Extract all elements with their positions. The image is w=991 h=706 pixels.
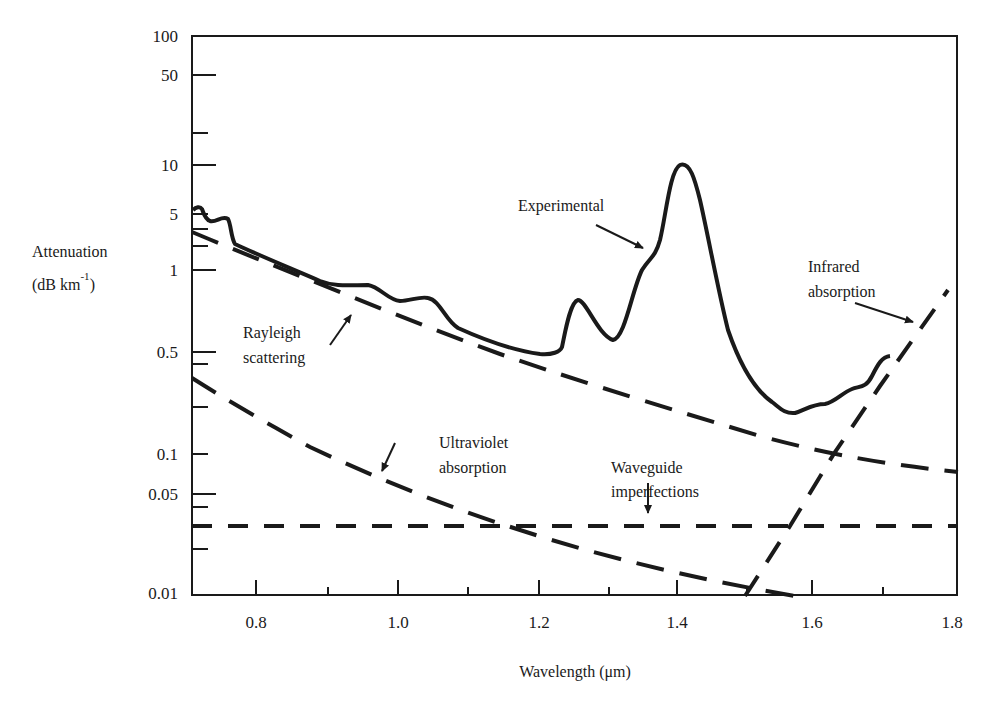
svg-text:1.8: 1.8 — [941, 613, 962, 632]
svg-text:absorption: absorption — [808, 283, 876, 301]
svg-text:Infrared: Infrared — [808, 258, 860, 275]
svg-text:5: 5 — [170, 205, 179, 224]
svg-text:absorption: absorption — [439, 459, 507, 477]
svg-text:1: 1 — [170, 261, 179, 280]
svg-text:0.05: 0.05 — [148, 485, 178, 504]
svg-text:0.8: 0.8 — [245, 613, 266, 632]
attenuation-chart: 100 50 10 5 1 0.5 0.1 0.05 0.01 0.8 1.0 … — [0, 0, 991, 706]
svg-text:Experimental: Experimental — [518, 197, 605, 215]
annotation-waveguide: Waveguide imperfections — [611, 459, 699, 513]
infrared-curve — [745, 290, 948, 596]
svg-text:1.2: 1.2 — [528, 613, 549, 632]
svg-text:100: 100 — [153, 27, 179, 46]
svg-text:0.1: 0.1 — [157, 445, 178, 464]
svg-text:0.5: 0.5 — [157, 343, 178, 362]
svg-text:imperfections: imperfections — [611, 483, 699, 501]
x-tick-labels: 0.8 1.0 1.2 1.4 1.6 1.8 — [245, 613, 962, 632]
svg-text:1.0: 1.0 — [387, 613, 408, 632]
arrow-icon — [382, 443, 395, 471]
y-tick-labels: 100 50 10 5 1 0.5 0.1 0.05 0.01 — [148, 27, 178, 603]
y-axis-ticks — [192, 75, 216, 549]
svg-text:Rayleigh: Rayleigh — [243, 324, 301, 342]
ultraviolet-curve — [192, 378, 795, 596]
arrow-icon — [330, 315, 351, 345]
svg-text:scattering: scattering — [243, 349, 305, 367]
annotation-ultraviolet: Ultraviolet absorption — [382, 434, 509, 477]
y-axis-title: Attenuation (dB km-1) — [32, 241, 108, 296]
arrow-icon — [855, 303, 913, 322]
annotation-infrared: Infrared absorption — [808, 258, 913, 322]
svg-text:0.01: 0.01 — [148, 584, 178, 603]
svg-text:1.4: 1.4 — [666, 613, 688, 632]
svg-text:Waveguide: Waveguide — [611, 459, 683, 477]
annotation-rayleigh: Rayleigh scattering — [243, 315, 351, 367]
svg-text:50: 50 — [161, 66, 178, 85]
annotation-experimental: Experimental — [518, 197, 643, 248]
arrow-icon — [596, 225, 643, 248]
svg-text:10: 10 — [161, 156, 178, 175]
x-axis-title: Wavelength (μm) — [519, 663, 631, 681]
svg-text:Ultraviolet: Ultraviolet — [439, 434, 509, 451]
svg-text:1.6: 1.6 — [801, 613, 822, 632]
plot-frame — [192, 36, 957, 595]
x-axis-ticks — [256, 580, 883, 595]
